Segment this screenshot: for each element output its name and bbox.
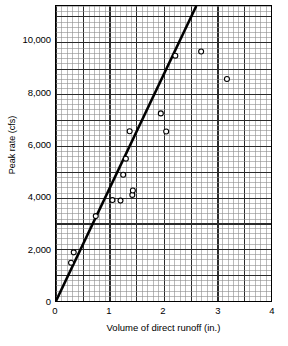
- data-layer: [56, 6, 271, 301]
- data-point-marker: [199, 49, 204, 54]
- x-tick-label: 3: [206, 305, 230, 316]
- chart-figure: 10,000 8,000 6,000 4,000 2,000 0 0 1 2 3…: [0, 0, 288, 346]
- x-tick-label: 1: [97, 305, 121, 316]
- data-point-marker: [123, 156, 128, 161]
- plot-area: [55, 5, 272, 302]
- data-point-marker: [158, 111, 163, 116]
- data-point-marker: [69, 260, 74, 265]
- data-point-marker: [121, 172, 126, 177]
- x-tick-label: 4: [260, 305, 284, 316]
- x-tick-label: 2: [151, 305, 175, 316]
- data-point-marker: [127, 129, 132, 134]
- x-axis-title: Volume of direct runoff (in.): [55, 322, 272, 333]
- data-point-marker: [173, 53, 178, 58]
- data-point-marker: [110, 198, 115, 203]
- data-point-marker: [224, 76, 229, 81]
- data-point-marker: [130, 188, 135, 193]
- data-point-marker: [71, 250, 76, 255]
- x-tick-label: 0: [43, 305, 67, 316]
- y-axis-title: Peak rate (cfs): [7, 80, 17, 210]
- data-point-marker: [118, 198, 123, 203]
- data-point-marker: [164, 129, 169, 134]
- data-point-marker: [93, 214, 98, 219]
- trend-line: [56, 6, 196, 301]
